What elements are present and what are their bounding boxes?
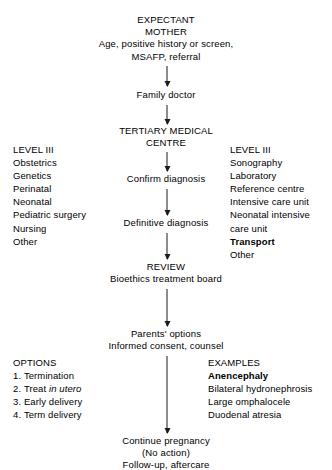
node-line: Parents' options (0, 328, 332, 340)
left-level-iii-item: Pediatric surgery (13, 208, 86, 221)
node-family-doctor: Family doctor (0, 89, 332, 101)
arrow-family-doctor-to-tertiary-centre (167, 105, 168, 124)
options-item-number: 1. (13, 370, 21, 381)
node-line: EXPECTANT (0, 14, 332, 26)
node-expectant-mother: EXPECTANT MOTHER Age, positive history o… (0, 14, 332, 63)
node-line: Continue pregnancy (0, 435, 332, 447)
right-level-iii-item: Sonography (230, 156, 310, 169)
node-line: MSAFP, referral (0, 51, 332, 63)
options-item-text-italic: in utero (49, 383, 82, 394)
arrow-tertiary-centre-to-confirm-diagnosis (167, 152, 168, 171)
examples-item: Large omphalocele (208, 395, 312, 408)
left-level-iii-item: Genetics (13, 169, 86, 182)
node-line: Informed consent, counsel (0, 340, 332, 352)
options-item: 3. Early delivery (13, 395, 82, 408)
node-continue-pregnancy: Continue pregnancy (No action) Follow-up… (0, 435, 332, 470)
options-item-text: Early delivery (24, 396, 82, 407)
right-level-iii-item: Laboratory (230, 169, 310, 182)
examples-item: Bilateral hydronephrosis (208, 382, 312, 395)
right-level-iii-item: Other (230, 248, 310, 261)
examples-column: EXAMPLES Anencephaly Bilateral hydroneph… (208, 356, 312, 421)
right-level-iii-item: Reference centre (230, 182, 310, 195)
options-item-number: 3. (13, 396, 21, 407)
options-item: 1. Termination (13, 369, 82, 382)
left-level-iii-item: Nursing (13, 222, 86, 235)
left-level-iii-item: Neonatal (13, 195, 86, 208)
arrow-mother-to-family-doctor (167, 66, 168, 86)
arrow-confirm-to-definitive-diagnosis (167, 189, 168, 215)
options-item-text: Treat (24, 383, 49, 394)
options-item-number: 4. (13, 409, 21, 420)
options-item-text: Term delivery (24, 409, 82, 420)
options-item: 4. Term delivery (13, 408, 82, 421)
node-line: MOTHER (0, 26, 332, 38)
options-item: 2. Treat in utero (13, 382, 82, 395)
options-item-number: 2. (13, 383, 21, 394)
node-review: REVIEW Bioethics treatment board (0, 261, 332, 285)
node-parents-options: Parents' options Informed consent, couns… (0, 328, 332, 352)
node-line: Family doctor (0, 89, 332, 101)
right-level-iii-item: Intensive care unit (230, 195, 310, 208)
left-level-iii-item: Perinatal (13, 182, 86, 195)
arrow-definitive-to-review (167, 233, 168, 259)
node-line: REVIEW (0, 261, 332, 273)
arrow-review-to-parents-options (167, 289, 168, 326)
examples-item-anencephaly: Anencephaly (208, 369, 312, 382)
right-level-iii-column: LEVEL III Sonography Laboratory Referenc… (230, 143, 310, 261)
left-level-iii-item: Other (13, 235, 86, 248)
node-line: Bioethics treatment board (0, 273, 332, 285)
arrow-parents-options-to-continue-pregnancy (167, 356, 168, 433)
options-item-text: Termination (24, 370, 74, 381)
flowchart-diagram: EXPECTANT MOTHER Age, positive history o… (0, 0, 332, 470)
right-level-iii-item: Neonatal intensive (230, 208, 310, 221)
right-level-iii-item-transport: Transport (230, 235, 310, 248)
left-level-iii-heading: LEVEL III (13, 143, 86, 156)
right-level-iii-item: care unit (230, 222, 310, 235)
left-level-iii-item: Obstetrics (13, 156, 86, 169)
node-line: (No action) (0, 447, 332, 459)
left-level-iii-column: LEVEL III Obstetrics Genetics Perinatal … (13, 143, 86, 248)
examples-item: Duodenal atresia (208, 408, 312, 421)
node-line: Follow-up, aftercare (0, 459, 332, 470)
node-line: TERTIARY MEDICAL (0, 125, 332, 137)
node-line: Age, positive history or screen, (0, 38, 332, 50)
options-column: OPTIONS 1. Termination 2. Treat in utero… (13, 356, 82, 421)
examples-heading: EXAMPLES (208, 356, 312, 369)
options-heading: OPTIONS (13, 356, 82, 369)
right-level-iii-heading: LEVEL III (230, 143, 310, 156)
